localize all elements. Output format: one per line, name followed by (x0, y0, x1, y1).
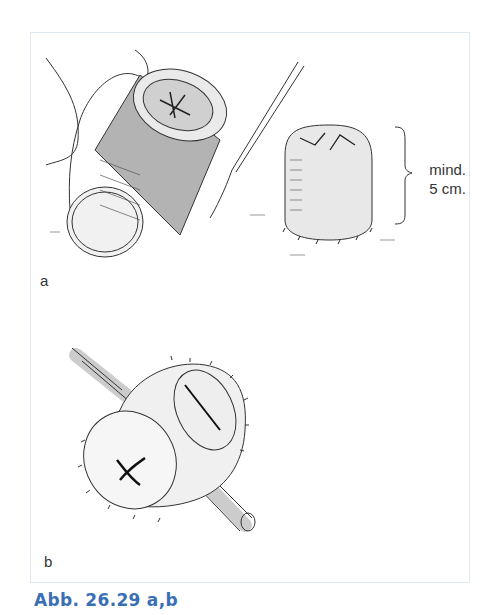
measurement-annotation: mind. 5 cm. (410, 160, 466, 198)
measurement-line1: mind. (410, 160, 466, 179)
figure-illustration (0, 0, 501, 615)
panel-a-drawing (46, 50, 412, 257)
panel-b-drawing (66, 348, 255, 531)
measurement-line2: 5 cm. (410, 179, 466, 198)
panel-b-label: b (44, 553, 52, 570)
figure-caption: Abb. 26.29 a,b (34, 590, 178, 610)
panel-a-label: a (40, 272, 48, 289)
